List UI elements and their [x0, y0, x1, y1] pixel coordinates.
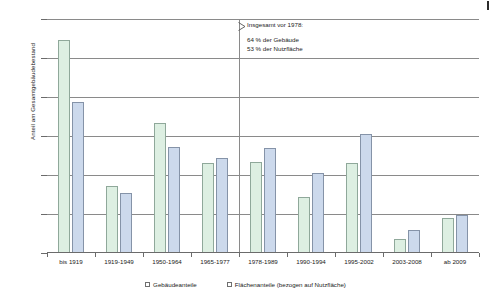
- x-tick-mark: [383, 253, 384, 257]
- bar-group: [202, 19, 229, 253]
- y-tick-mark: [41, 58, 47, 59]
- y-tick-mark: [41, 175, 47, 176]
- chart-container: Anteil am Gesamtgebäudebestand 0 %5 %10 …: [0, 0, 491, 298]
- bar: [264, 148, 277, 253]
- legend-item[interactable]: Gebäudeanteile: [145, 281, 197, 288]
- annotation-heading: Insgesamt vor 1978:: [247, 21, 303, 30]
- bar-group: [442, 19, 469, 253]
- legend-item[interactable]: Flächenanteile (bezogen auf Nutzfläche): [227, 281, 346, 288]
- bar: [394, 239, 407, 253]
- y-tick-mark: [41, 97, 47, 98]
- bar: [120, 193, 133, 253]
- legend-label: Gebäudeanteile: [153, 281, 197, 288]
- bar: [442, 218, 455, 253]
- bar: [58, 40, 71, 253]
- bar-group: [250, 19, 277, 253]
- bar: [72, 102, 85, 253]
- bar: [250, 162, 263, 253]
- period-divider: [239, 19, 240, 253]
- bar: [154, 123, 167, 253]
- bar: [202, 163, 215, 253]
- legend-label: Flächenanteile (bezogen auf Nutzfläche): [235, 281, 346, 288]
- bar: [216, 158, 229, 253]
- bar: [346, 163, 359, 253]
- bar: [312, 173, 325, 253]
- corner-mark: [487, 1, 489, 10]
- bar-group: [298, 19, 325, 253]
- legend-swatch: [227, 282, 232, 287]
- x-tick-label: ab 2009: [415, 258, 491, 265]
- bar: [360, 134, 373, 253]
- callout-arrow-icon: [238, 22, 246, 31]
- annotation-line-1: 64 % der Gebäude: [247, 36, 303, 45]
- bar: [298, 197, 311, 253]
- bar: [408, 230, 421, 253]
- legend-swatch: [145, 282, 150, 287]
- y-axis-title: Anteil am Gesamtgebäudebestand: [29, 12, 36, 172]
- chart-legend: GebäudeanteileFlächenanteile (bezogen au…: [0, 281, 491, 288]
- x-tick-mark: [431, 253, 432, 257]
- bar-group: [346, 19, 373, 253]
- bar: [106, 186, 119, 253]
- y-tick-mark: [41, 19, 47, 20]
- bar-group: [58, 19, 85, 253]
- plot-area: [47, 19, 479, 253]
- x-tick-mark: [95, 253, 96, 257]
- x-tick-mark: [287, 253, 288, 257]
- x-axis-line: [47, 252, 479, 253]
- x-tick-mark: [335, 253, 336, 257]
- y-tick-mark: [41, 136, 47, 137]
- x-tick-mark: [479, 253, 480, 257]
- y-tick-mark: [41, 214, 47, 215]
- x-tick-mark: [239, 253, 240, 257]
- x-tick-mark: [143, 253, 144, 257]
- bar: [168, 147, 181, 253]
- bar-group: [154, 19, 181, 253]
- bar: [456, 215, 469, 253]
- x-tick-mark: [191, 253, 192, 257]
- annotation-line-2: 53 % der Nutzfläche: [247, 45, 303, 54]
- annotation-callout: Insgesamt vor 1978: 64 % der Gebäude 53 …: [247, 21, 303, 54]
- bar-group: [394, 19, 421, 253]
- x-tick-mark: [47, 253, 48, 257]
- bar-group: [106, 19, 133, 253]
